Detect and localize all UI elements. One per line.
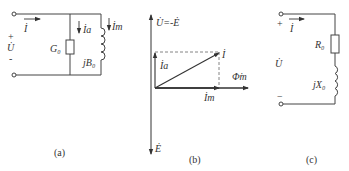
label-voltage-u: U̇ (275, 58, 283, 69)
label-current-i: İ (23, 23, 28, 34)
label-g0: G₀ (50, 43, 61, 54)
conductance-g0-resistor (66, 40, 74, 54)
caption-c: (c) (306, 154, 317, 166)
label-plus: + (277, 18, 283, 29)
label-current-im: İm (203, 92, 215, 103)
label-flux: Φ̇m (232, 71, 247, 82)
label-current-ia: İa (82, 24, 91, 35)
resistor-r0 (331, 35, 339, 53)
label-current-ia: İa (159, 60, 168, 71)
label-jx0: jX₀ (311, 79, 326, 90)
terminal-bottom (12, 73, 16, 77)
terminal-top (279, 12, 283, 16)
label-voltage-axis: U̇=-Ė (156, 17, 179, 28)
caption-b: (b) (189, 154, 201, 166)
susceptance-b0-inductor (101, 28, 105, 62)
label-minus: − (277, 91, 283, 102)
inductor-jx0 (283, 66, 338, 104)
label-r0: R₀ (314, 39, 325, 50)
figure-c-series-circuit: İ + U̇ − R₀ jX₀ (c) (275, 12, 339, 166)
terminal-top (12, 12, 16, 16)
label-minus: - (9, 53, 12, 64)
label-current-i: İ (289, 23, 294, 34)
label-current-im: İm (111, 21, 123, 32)
label-jb0: jB₀ (81, 57, 96, 68)
label-current-i: İ (221, 49, 226, 60)
figure-a-parallel-circuit: İ + U̇ - G₀ İa İm jB₀ (a) (7, 12, 123, 159)
figure-b-phasor-diagram: U̇=-Ė Ė Φ̇m İm İa İ (b) (151, 15, 248, 166)
caption-a: (a) (54, 147, 65, 159)
label-emf: Ė (154, 143, 161, 154)
terminal-bottom (279, 102, 283, 106)
label-voltage-u: U̇ (7, 42, 15, 53)
label-plus: + (8, 31, 14, 42)
